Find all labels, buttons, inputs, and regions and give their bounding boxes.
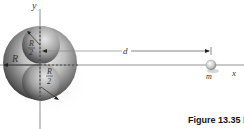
distance-label: d [123, 46, 128, 56]
caption-rest: P [241, 115, 244, 125]
big-radius-label: R [11, 53, 18, 64]
y-axis-label: y [31, 0, 37, 11]
lower-half-radius-den: 2 [47, 77, 51, 86]
upper-half-radius-num: R [28, 39, 34, 48]
caption-prefix: Figure 13.35 [188, 115, 241, 125]
upper-half-radius-den: 2 [29, 48, 33, 57]
lower-half-radius-num: R [46, 67, 52, 76]
lower-cavity [22, 63, 60, 101]
distance-arrowhead [205, 49, 210, 53]
figure-caption: Figure 13.35 P [188, 115, 244, 125]
sphere-cavity-diagram: y x R R 2 R 2 d m [0, 0, 244, 129]
x-axis-label: x [231, 68, 236, 78]
mass-label: m [206, 72, 212, 81]
point-mass [206, 60, 216, 70]
